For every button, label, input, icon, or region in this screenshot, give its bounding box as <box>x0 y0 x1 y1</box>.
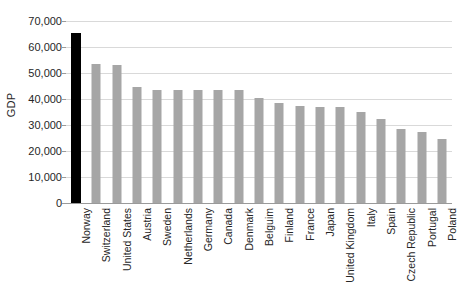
bar <box>437 139 446 203</box>
x-axis-tick-labels: NorwaySwitzerlandUnited StatesAustriaSwe… <box>66 206 452 301</box>
plot-area <box>66 21 452 203</box>
bar <box>234 90 243 203</box>
x-axis-tick-label: Denmark <box>229 206 249 301</box>
bar-slot <box>188 21 208 203</box>
bar-slot <box>391 21 411 203</box>
x-axis-tick-label: Switzerland <box>86 206 106 301</box>
x-axis-tick-label: Belguim <box>249 206 269 301</box>
bar <box>295 106 304 204</box>
bar-slot <box>289 21 309 203</box>
bar-slot <box>411 21 431 203</box>
y-axis-tick-label: 20,000 <box>2 145 62 157</box>
gdp-bar-chart: GDP 010,00020,00030,00040,00050,00060,00… <box>0 0 465 301</box>
bar <box>153 90 162 203</box>
x-axis-tick-label: Japan <box>310 206 330 301</box>
x-axis-tick-label: Netherlands <box>168 206 188 301</box>
bar-slot <box>66 21 86 203</box>
bar <box>133 87 142 203</box>
bar-slot <box>168 21 188 203</box>
bar <box>315 107 324 203</box>
y-axis-tick-label: 40,000 <box>2 93 62 105</box>
y-axis-tick-label: 30,000 <box>2 119 62 131</box>
y-axis-tick-label: 10,000 <box>2 171 62 183</box>
x-axis-tick-label-text: Poland <box>446 208 458 241</box>
x-axis-tick-label: United States <box>107 206 127 301</box>
bar <box>194 90 203 203</box>
y-axis-tick-labels: 010,00020,00030,00040,00050,00060,00070,… <box>0 0 62 301</box>
bar <box>336 107 345 203</box>
x-axis-tick-label: Germany <box>188 206 208 301</box>
bar <box>356 112 365 203</box>
x-axis-tick-label: France <box>289 206 309 301</box>
bar <box>376 119 385 204</box>
y-axis-tick-label: 60,000 <box>2 41 62 53</box>
x-axis-tick-label: Italy <box>350 206 370 301</box>
bar <box>92 64 101 203</box>
bar <box>71 33 81 203</box>
bar <box>275 103 284 203</box>
bar-slot <box>127 21 147 203</box>
bar-slot <box>229 21 249 203</box>
y-axis-tick-label: 70,000 <box>2 15 62 27</box>
bar-slot <box>432 21 452 203</box>
bar-slot <box>269 21 289 203</box>
bar-slot <box>310 21 330 203</box>
bar <box>112 65 121 203</box>
bar-slot <box>86 21 106 203</box>
x-axis-tick-label: Austria <box>127 206 147 301</box>
y-axis-tick-label: 0 <box>2 197 62 209</box>
bar-slot <box>107 21 127 203</box>
x-axis-line <box>66 203 452 204</box>
bar-slot <box>249 21 269 203</box>
bar-slot <box>330 21 350 203</box>
bar <box>417 132 426 204</box>
x-axis-tick-label: Finland <box>269 206 289 301</box>
bar <box>173 90 182 203</box>
bar-slot <box>350 21 370 203</box>
bar <box>397 129 406 203</box>
bar-slot <box>371 21 391 203</box>
x-axis-tick-label: Sweden <box>147 206 167 301</box>
x-axis-tick-label: Spain <box>371 206 391 301</box>
bar <box>254 98 263 203</box>
bar-slot <box>147 21 167 203</box>
x-axis-tick-label: Czech Republic <box>391 206 411 301</box>
x-axis-tick-label: Poland <box>432 206 452 301</box>
bar <box>214 90 223 203</box>
x-axis-tick-label: Norway <box>66 206 86 301</box>
y-axis-tick-label: 50,000 <box>2 67 62 79</box>
x-axis-tick-label: Canada <box>208 206 228 301</box>
x-axis-tick-label: United Kingdom <box>330 206 350 301</box>
x-axis-tick-label: Portugal <box>411 206 431 301</box>
bar-slot <box>208 21 228 203</box>
